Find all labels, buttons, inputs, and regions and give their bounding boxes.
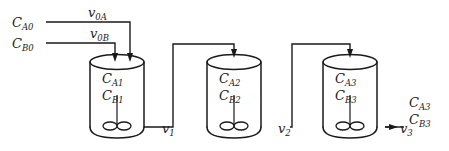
product-species-b-label: CB3 (409, 112, 431, 129)
feed-a-concentration-label: CA0 (12, 15, 34, 32)
reactor-1-top-rim (90, 55, 144, 70)
reactor-1-impeller-blade-right (117, 122, 131, 130)
reactor3-inlet-arrowhead (347, 49, 353, 58)
feed-line-b (46, 43, 118, 62)
product-outlet-arrowhead (389, 124, 398, 130)
reactor-2-impeller-blade-left (220, 122, 234, 130)
reactor-3-species-a-label: CA3 (335, 71, 357, 88)
reactor-2-species-b-label: CB2 (219, 88, 241, 105)
reactor-2-impeller-blade-right (234, 122, 248, 130)
feed-a-flow-label: v0A (88, 5, 107, 22)
cstr-series-diagram: CA0 CB0 v0A v0B CA1 CB1 CA2 CB2 CA3 (0, 0, 449, 151)
feed-a-arrowhead (127, 53, 133, 62)
feed-b-concentration-label: CB0 (12, 36, 34, 53)
feed-b-flow-label: v0B (90, 26, 109, 43)
reactor2-inlet-arrowhead (231, 49, 237, 58)
reactor-3-impeller-blade-right (350, 122, 364, 130)
reactor-1-species-a-label: CA1 (102, 71, 124, 88)
flowsheet-canvas: CA0 CB0 v0A v0B CA1 CB1 CA2 CB2 CA3 (0, 0, 449, 151)
reactor-3-species-b-label: CB3 (335, 88, 357, 105)
product-species-a-label: CA3 (409, 95, 431, 112)
reactor-3-impeller-blade-left (336, 122, 350, 130)
stream-2-flow-label: v2 (278, 121, 291, 138)
reactor-1-species-b-label: CB1 (102, 88, 124, 105)
reactor-2-species-a-label: CA2 (219, 71, 241, 88)
reactor-1-impeller-blade-left (103, 122, 117, 130)
